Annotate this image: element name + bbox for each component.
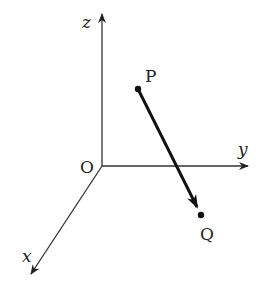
- x-axis-label: x: [22, 246, 32, 266]
- point-q-label: Q: [200, 224, 214, 244]
- y-axis-label: y: [237, 139, 248, 159]
- x-axis: [31, 166, 102, 274]
- vector-pq: [138, 89, 197, 207]
- origin-label: O: [80, 157, 94, 177]
- z-axis-label: z: [81, 12, 92, 32]
- point-q: [198, 212, 204, 218]
- coordinate-diagram: z y x O P Q: [0, 0, 275, 286]
- point-p-label: P: [145, 66, 156, 86]
- point-p: [135, 86, 141, 92]
